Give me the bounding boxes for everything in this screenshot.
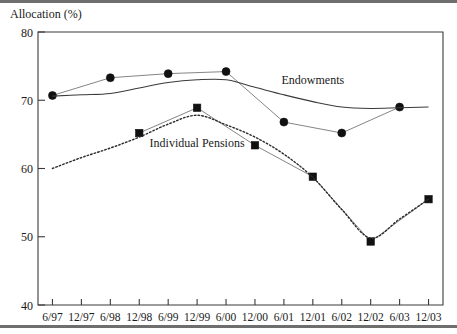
- series-layer: [48, 68, 432, 246]
- series-endowments-trend: [52, 79, 428, 108]
- allocation-line-chart: Allocation (%) 4050607080 6/9712/976/981…: [0, 0, 457, 334]
- series-line: [139, 108, 428, 242]
- x-tick-label: 12/01: [300, 311, 326, 323]
- x-tick-label: 12/02: [358, 311, 384, 323]
- series-annotation-label: Individual Pensions: [150, 136, 245, 150]
- data-point-marker: [164, 70, 172, 78]
- chart-figure: Allocation (%) 4050607080 6/9712/976/981…: [0, 0, 457, 334]
- x-tick-label: 6/01: [274, 311, 295, 323]
- x-tick-label: 6/97: [42, 311, 63, 323]
- data-point-marker: [106, 74, 114, 82]
- x-tick-label: 6/00: [216, 311, 237, 323]
- data-point-marker: [193, 104, 200, 111]
- y-tick-label: 50: [21, 230, 33, 244]
- data-point-marker: [251, 142, 258, 149]
- data-point-marker: [280, 118, 288, 126]
- data-point-marker: [48, 91, 56, 99]
- y-tick-label: 70: [21, 94, 33, 108]
- x-tick-label: 12/99: [184, 311, 210, 323]
- x-tick-label: 12/98: [126, 311, 152, 323]
- y-tick-label: 60: [21, 162, 33, 176]
- series-line: [52, 72, 399, 133]
- x-tick-label: 6/02: [332, 311, 353, 323]
- x-tick-label: 6/99: [158, 311, 179, 323]
- data-point-marker: [367, 238, 374, 245]
- x-tick-label: 12/97: [68, 311, 94, 323]
- data-point-marker: [136, 129, 143, 136]
- x-tick-label: 6/03: [389, 311, 410, 323]
- x-tick-label: 12/03: [415, 311, 441, 323]
- data-point-marker: [338, 129, 346, 137]
- y-axis-title: Allocation (%): [10, 7, 82, 21]
- series-line: [52, 79, 428, 108]
- x-tick-label: 6/98: [100, 311, 121, 323]
- annotation-layer: EndowmentsIndividual Pensions: [150, 73, 345, 150]
- data-point-marker: [396, 103, 404, 111]
- series-annotation-label: Endowments: [281, 73, 344, 87]
- y-axis-ticks: 4050607080: [21, 26, 45, 313]
- x-axis-ticks: 6/9712/976/9812/986/9912/996/0012/006/01…: [42, 299, 442, 323]
- data-point-marker: [222, 68, 230, 76]
- series-line: [52, 115, 428, 238]
- axis-title-group: Allocation (%): [10, 7, 82, 21]
- plot-frame: [38, 32, 443, 305]
- y-tick-label: 40: [21, 299, 33, 313]
- y-tick-label: 80: [21, 26, 33, 40]
- x-tick-label: 12/00: [242, 311, 268, 323]
- series-individual-pensions-trend: [52, 115, 428, 238]
